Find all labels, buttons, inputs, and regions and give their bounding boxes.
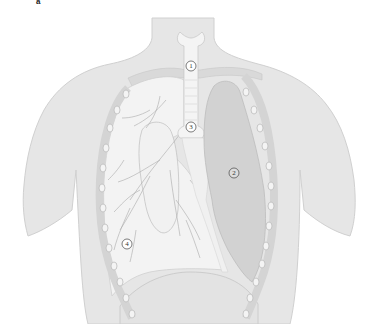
chest-anatomy-diagram: 1 2 3 4 xyxy=(0,0,368,324)
label-1: 1 xyxy=(186,61,196,71)
label-4: 4 xyxy=(122,239,132,249)
label-2: 2 xyxy=(229,168,239,178)
svg-text:4: 4 xyxy=(125,240,129,248)
svg-text:3: 3 xyxy=(189,123,193,131)
svg-text:1: 1 xyxy=(189,62,193,70)
label-3: 3 xyxy=(186,122,196,132)
svg-text:2: 2 xyxy=(232,169,236,177)
